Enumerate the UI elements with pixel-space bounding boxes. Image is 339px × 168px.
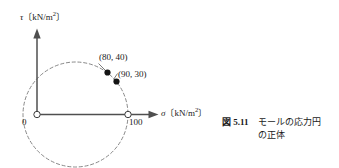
figure-caption-text: モールの応力円 の正体	[258, 116, 337, 142]
sigma-axis-arrowhead	[149, 111, 159, 118]
figure-caption-line-1: モールの応力円	[258, 116, 337, 129]
tau-unit-text: kN/m	[32, 12, 53, 22]
tick-label-origin: 0	[22, 117, 27, 127]
caption-row: 図 5.11 モールの応力円 の正体	[222, 116, 337, 142]
figure-caption-line-2: の正体	[258, 129, 337, 142]
tau-axis-arrowhead	[33, 29, 40, 39]
data-point-90-30	[113, 78, 119, 84]
sigma-axis-label: σ〔kN/m2〕	[161, 106, 207, 119]
figure-caption: 図 5.11 モールの応力円 の正体	[222, 116, 337, 142]
sigma-unit-close-bracket: 〕	[198, 108, 207, 118]
tau-unit-open-bracket: 〔	[23, 12, 32, 22]
data-point-label-80-40: (80, 40)	[99, 52, 128, 62]
figure-caption-number: 図 5.11	[222, 116, 249, 129]
open-marker-origin	[34, 111, 40, 117]
tau-unit-close-bracket: 〕	[56, 12, 65, 22]
leader-line-point-0	[99, 64, 107, 72]
data-point-80-40	[104, 69, 110, 75]
figure-container: τ〔kN/m2〕 σ〔kN/m2〕 0 100 (80, 40) (90, 30…	[0, 0, 339, 168]
sigma-unit-text: kN/m	[174, 108, 195, 118]
tick-label-sigma-max: 100	[129, 117, 143, 127]
tau-axis-label: τ〔kN/m2〕	[20, 10, 65, 23]
mohr-circle-plot	[0, 0, 339, 168]
data-point-label-90-30: (90, 30)	[118, 69, 147, 79]
